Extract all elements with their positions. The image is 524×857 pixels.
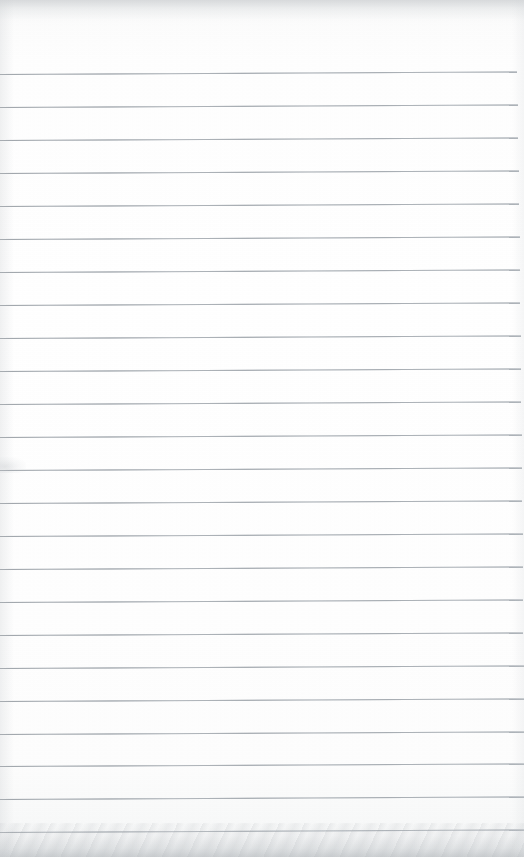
paper-background <box>0 0 524 857</box>
scanned-notebook-page <box>0 0 524 857</box>
